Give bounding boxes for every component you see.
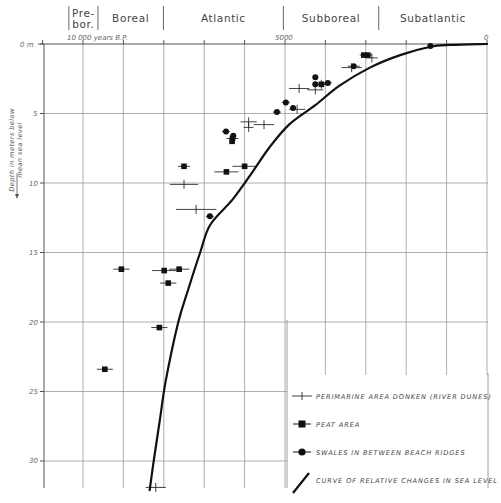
- data-point: [254, 120, 274, 129]
- data-point: [97, 366, 113, 372]
- y-axis-title-line2: mean sea level: [16, 122, 24, 178]
- data-point: [312, 74, 318, 80]
- data-point: [282, 99, 290, 105]
- legend-label: CURVE OF RELATIVE CHANGES IN SEA LEVEL: [316, 477, 498, 485]
- data-points: [97, 43, 434, 492]
- data-point: [178, 164, 190, 170]
- x-tick-label-10000: 10 000 years B.P.: [67, 34, 128, 42]
- data-point: [324, 80, 332, 86]
- series-circle: [206, 43, 434, 219]
- data-point: [152, 268, 176, 274]
- data-point: [222, 129, 230, 135]
- data-point: [229, 139, 235, 145]
- chart-grid: [44, 44, 488, 488]
- data-point: [290, 105, 296, 111]
- x-tick-label-0: 0: [484, 34, 489, 42]
- data-point: [348, 63, 360, 69]
- legend-item-circle: SWALES IN BETWEEN BEACH RIDGES: [293, 448, 466, 456]
- legend-item-cross: PERIMARINE AREA DONKEN (RIVER DUNES): [292, 392, 492, 401]
- sea-level-chart: Pre-bor.BorealAtlanticSubborealSubatlant…: [0, 0, 501, 503]
- data-point: [151, 325, 167, 331]
- legend: PERIMARINE AREA DONKEN (RIVER DUNES)PEAT…: [287, 320, 498, 493]
- data-point: [160, 280, 176, 286]
- period-label: Atlantic: [201, 12, 246, 24]
- y-tick-label-10: 10: [29, 180, 38, 188]
- period-label: Boreal: [112, 12, 149, 24]
- period-label: Subboreal: [302, 12, 360, 24]
- period-bands: Pre-bor.BorealAtlanticSubborealSubatlant…: [69, 6, 466, 30]
- y-tick-label-15: 15: [29, 249, 38, 257]
- data-point: [312, 81, 318, 87]
- legend-label: PERIMARINE AREA DONKEN (RIVER DUNES): [316, 393, 492, 401]
- y-tick-label-5: 5: [33, 110, 38, 118]
- x-tick-label-5000: 5000: [275, 34, 293, 42]
- data-point: [170, 180, 198, 189]
- y-axis-title: Depth in meters below mean sea level: [8, 108, 24, 192]
- data-point: [176, 205, 216, 214]
- square-marker-icon: [299, 421, 306, 428]
- legend-label: PEAT AREA: [316, 421, 360, 429]
- period-label: Subatlantic: [400, 12, 466, 24]
- data-point: [230, 133, 236, 139]
- data-point: [113, 266, 129, 272]
- y-tick-label-0: 0 m: [20, 41, 34, 49]
- series-square: [97, 52, 372, 372]
- data-point: [206, 213, 214, 219]
- circle-marker-icon: [298, 448, 305, 455]
- data-point: [232, 164, 256, 170]
- y-tick-label-20: 20: [29, 319, 38, 327]
- legend-item-line: CURVE OF RELATIVE CHANGES IN SEA LEVEL: [293, 473, 498, 493]
- data-point: [273, 109, 281, 115]
- data-point: [289, 84, 309, 93]
- period-label: bor.: [72, 18, 94, 30]
- legend-item-square: PEAT AREA: [293, 421, 360, 429]
- y-tick-label-30: 30: [29, 457, 38, 465]
- legend-label: SWALES IN BETWEEN BEACH RIDGES: [316, 449, 466, 457]
- y-tick-label-25: 25: [29, 388, 38, 396]
- chart-axes: [38, 40, 488, 488]
- data-point: [244, 123, 254, 132]
- y-axis-title-line1: Depth in meters below: [8, 108, 16, 192]
- data-point: [427, 43, 433, 49]
- data-point: [169, 266, 189, 272]
- curve-line-icon: [293, 473, 309, 493]
- data-point: [214, 169, 238, 175]
